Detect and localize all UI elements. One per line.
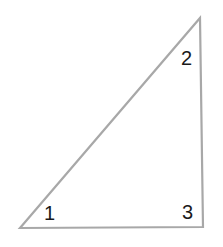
triangle-diagram: 1 2 3	[0, 0, 223, 247]
angle-label-3: 3	[182, 201, 193, 223]
angle-label-2: 2	[181, 47, 192, 69]
triangle-shape	[20, 18, 203, 228]
angle-label-1: 1	[44, 202, 55, 224]
